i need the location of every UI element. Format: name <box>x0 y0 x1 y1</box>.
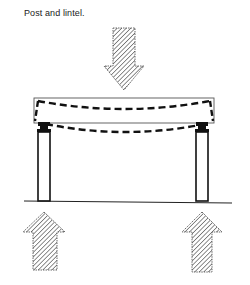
lintel-deflection-curve <box>35 101 213 132</box>
right-post <box>196 132 208 201</box>
left-bearing-block <box>37 122 51 132</box>
right-reaction-arrow-up-icon <box>182 212 222 272</box>
post-and-lintel-diagram <box>0 0 250 285</box>
load-arrow-down-icon <box>104 28 144 90</box>
right-bearing-block <box>195 122 209 132</box>
lintel-beam <box>34 98 214 123</box>
left-post <box>38 132 50 201</box>
left-reaction-arrow-up-icon <box>23 212 65 270</box>
